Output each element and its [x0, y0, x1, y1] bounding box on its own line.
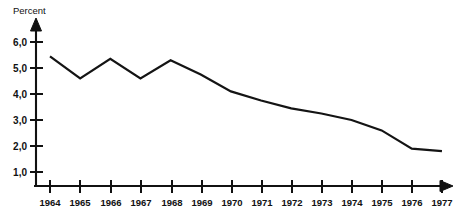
x-tick-label: 1971: [251, 197, 273, 208]
x-tick-1971: 1971: [251, 180, 273, 208]
x-tick-1970: 1970: [221, 180, 242, 208]
x-tick-label: 1967: [130, 197, 151, 208]
y-axis-title: Percent: [13, 5, 46, 16]
x-tick-group: 1964 1965 1966 1967 1968 1969: [39, 180, 452, 208]
up-arrow-icon: [31, 18, 42, 31]
x-tick-1965: 1965: [69, 180, 91, 208]
y-tick-6: 6,0: [13, 37, 43, 48]
y-tick-3: 3,0: [13, 115, 43, 126]
x-tick-1974: 1974: [341, 180, 363, 208]
data-series-line: [50, 56, 442, 151]
y-tick-label: 6,0: [13, 37, 27, 48]
y-tick-label: 5,0: [13, 63, 27, 74]
x-tick-1966: 1966: [100, 180, 121, 208]
x-tick-label: 1972: [281, 197, 302, 208]
x-tick-1967: 1967: [130, 180, 151, 208]
y-tick-4: 4,0: [13, 89, 43, 100]
y-tick-label: 3,0: [13, 115, 27, 126]
chart-canvas: Percent 6,0 5,0 4,0: [0, 0, 460, 221]
x-tick-label: 1970: [221, 197, 242, 208]
x-tick-1968: 1968: [161, 180, 182, 208]
x-tick-1972: 1972: [281, 180, 302, 208]
y-tick-5: 5,0: [13, 63, 43, 74]
y-tick-1: 1,0: [13, 167, 43, 178]
x-tick-label: 1968: [161, 197, 182, 208]
line-chart: Percent 6,0 5,0 4,0: [0, 0, 460, 221]
x-tick-1973: 1973: [311, 180, 332, 208]
x-tick-label: 1969: [191, 197, 212, 208]
x-tick-1976: 1976: [401, 180, 422, 208]
y-axis: [31, 18, 42, 187]
x-tick-1975: 1975: [371, 180, 393, 208]
y-tick-label: 2,0: [13, 141, 27, 152]
x-axis: [34, 181, 453, 192]
y-tick-label: 1,0: [13, 167, 27, 178]
x-tick-label: 1966: [100, 197, 121, 208]
x-tick-label: 1974: [341, 197, 363, 208]
x-tick-label: 1977: [431, 197, 452, 208]
y-tick-label: 4,0: [13, 89, 27, 100]
x-tick-1964: 1964: [39, 180, 61, 208]
x-tick-label: 1964: [39, 197, 61, 208]
x-tick-label: 1965: [69, 197, 91, 208]
x-tick-label: 1976: [401, 197, 422, 208]
y-tick-group: 6,0 5,0 4,0 3,0 2,0 1,0: [13, 37, 43, 178]
y-tick-2: 2,0: [13, 141, 43, 152]
x-tick-1969: 1969: [191, 180, 212, 208]
x-tick-label: 1975: [371, 197, 393, 208]
x-tick-label: 1973: [311, 197, 332, 208]
